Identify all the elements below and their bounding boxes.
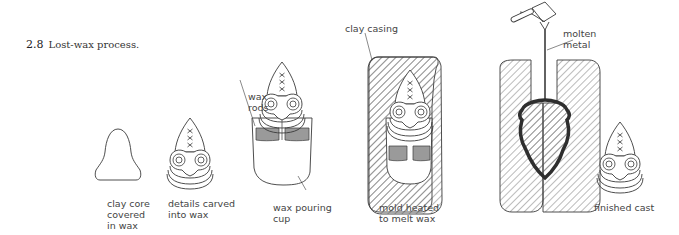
stage-label-1: clay core covered in wax bbox=[107, 198, 150, 231]
stage-6-finished-cast bbox=[597, 122, 643, 193]
callout-molten-metal: molten metal bbox=[563, 28, 596, 50]
stage-1-clay-core bbox=[95, 129, 141, 180]
callout-wax-rods: wax rods bbox=[248, 91, 269, 113]
stage-2-details-carved bbox=[167, 118, 213, 189]
stage-label-2: details carved into wax bbox=[168, 198, 235, 220]
callout-clay-casing: clay casing bbox=[345, 23, 398, 34]
stage-label-5: finished cast bbox=[594, 202, 654, 213]
stage-3-wax-pouring-cup bbox=[240, 62, 312, 190]
stage-4-mold-heated bbox=[365, 33, 442, 214]
stage-label-4: mold heated to melt wax bbox=[379, 202, 439, 224]
stage-label-3: wax pouring cup bbox=[273, 202, 332, 224]
